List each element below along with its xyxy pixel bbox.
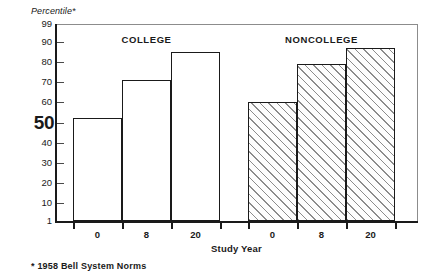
x-axis-tick bbox=[297, 223, 299, 229]
x-axis-tick-label: 8 bbox=[132, 229, 162, 240]
x-axis-tick-label: 20 bbox=[356, 229, 386, 240]
group-title-noncollege: NONCOLLEGE bbox=[228, 34, 415, 45]
x-axis-tick bbox=[248, 223, 250, 229]
y-axis-tick-label: 80 bbox=[26, 57, 52, 67]
y-axis-tick bbox=[57, 62, 64, 63]
x-axis-tick bbox=[346, 223, 348, 229]
y-axis-tick-labels: 999080706050403020101 bbox=[22, 0, 52, 278]
bar-noncollege-20 bbox=[346, 48, 395, 221]
y-axis-tick-label: 99 bbox=[26, 19, 52, 29]
y-axis-tick bbox=[57, 203, 64, 204]
chart-footnote: * 1958 Bell System Norms bbox=[31, 261, 146, 271]
bar-noncollege-8 bbox=[297, 64, 346, 221]
x-axis-line bbox=[55, 221, 418, 223]
percentile-bar-chart: Percentile* 999080706050403020101 COLLEG… bbox=[0, 0, 445, 278]
y-axis-tick-label: 70 bbox=[26, 77, 52, 87]
y-axis-tick bbox=[57, 143, 64, 144]
y-axis-tick-label: 40 bbox=[26, 138, 52, 148]
bar-college-20 bbox=[171, 52, 220, 221]
y-axis-tick-label: 30 bbox=[26, 158, 52, 168]
y-axis-tick-label: 1 bbox=[26, 216, 52, 226]
x-axis-title: Study Year bbox=[55, 243, 418, 254]
y-axis-tick-label: 60 bbox=[26, 97, 52, 107]
group-title-college: COLLEGE bbox=[53, 34, 240, 45]
y-axis-tick bbox=[57, 183, 64, 184]
y-axis-tick-label: 50 bbox=[24, 113, 54, 132]
x-axis-tick-label: 0 bbox=[258, 229, 288, 240]
x-axis-tick bbox=[73, 223, 75, 229]
y-axis-tick-label: 20 bbox=[26, 178, 52, 188]
x-axis-tick bbox=[395, 223, 397, 229]
x-axis-tick-label: 8 bbox=[307, 229, 337, 240]
bar-college-0 bbox=[73, 118, 122, 221]
y-axis-tick bbox=[57, 82, 64, 83]
y-axis-tick bbox=[57, 102, 64, 103]
y-axis-tick bbox=[57, 163, 64, 164]
x-axis-tick bbox=[122, 223, 124, 229]
x-axis-tick-label: 0 bbox=[83, 229, 113, 240]
bar-noncollege-0 bbox=[248, 102, 297, 221]
y-axis-tick-label: 10 bbox=[26, 198, 52, 208]
x-axis-tick-label: 20 bbox=[181, 229, 211, 240]
x-axis-tick bbox=[171, 223, 173, 229]
x-axis-tick bbox=[220, 223, 222, 229]
y-axis-line bbox=[55, 24, 57, 223]
y-axis-tick-label: 90 bbox=[26, 37, 52, 47]
y-axis-tick bbox=[57, 123, 64, 124]
bar-college-8 bbox=[122, 80, 171, 221]
